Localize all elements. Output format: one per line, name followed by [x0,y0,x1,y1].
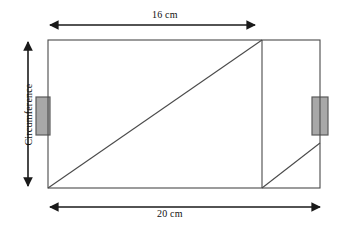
main-rectangle [48,40,320,188]
circumference-label: Circumference [23,60,34,170]
diagram-canvas: 16 cm 20 cm Circumference [0,0,344,231]
cylinder-net-figure [0,0,344,231]
bottom-dimension-label: 20 cm [157,208,183,219]
top-dimension-label: 16 cm [152,9,178,20]
